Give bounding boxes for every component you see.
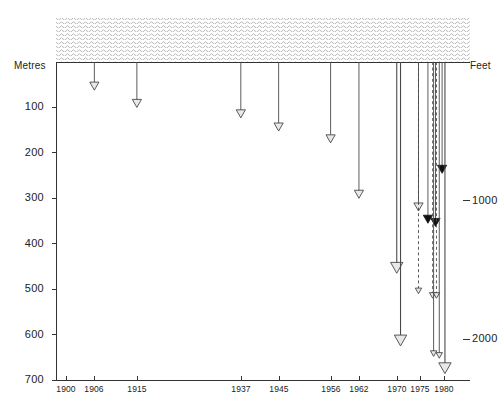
metres-tick-label-600: 600 [8,328,44,340]
dive-record-arrow [433,62,439,298]
open-arrowhead-icon [436,353,442,359]
open-arrowhead-icon [236,110,245,118]
dive-record-arrow [394,62,406,346]
open-arrowhead-icon [274,123,283,131]
metres-tick-label-300: 300 [8,191,44,203]
dive-depth-record-figure: Metres Feet 100 200 300 400 500 600 700 … [0,0,504,411]
dive-record-arrow [391,62,403,273]
dive-record-arrow [423,62,432,223]
dive-record-arrows [90,62,451,374]
year-tick-label-1906: 1906 [79,384,109,394]
axis-frame [56,62,470,381]
dive-record-arrow [90,62,99,90]
open-arrowhead-icon [394,335,406,346]
year-tick-label-1945: 1945 [264,384,294,394]
year-tick-label-1937: 1937 [226,384,256,394]
open-arrowhead-icon [430,351,436,357]
dive-record-arrow [439,62,451,374]
feet-axis-title: Feet [470,60,491,71]
water-surface-hatching [56,18,470,62]
dive-record-arrow [132,62,141,107]
open-arrowhead-icon [439,363,451,374]
dive-record-arrow [236,62,245,118]
open-arrowhead-icon [415,288,421,294]
metres-tick-label-200: 200 [8,146,44,158]
open-arrowhead-icon [132,99,141,107]
dive-record-arrow [274,62,283,131]
feet-tick-label-1000: 1000 [472,194,498,206]
dive-record-arrow [326,62,335,143]
metres-tick-label-100: 100 [8,100,44,112]
depth-chart-canvas [0,0,504,411]
metres-tick-label-700: 700 [8,373,44,385]
dive-record-arrow [429,62,435,298]
feet-tick-label-2000: 2000 [472,332,498,344]
metres-tick-label-400: 400 [8,237,44,249]
year-tick-label-1915: 1915 [122,384,152,394]
year-tick-label-1956: 1956 [316,384,346,394]
open-arrowhead-icon [354,190,363,198]
feet-tick-marks [463,201,470,340]
metres-tick-label-500: 500 [8,282,44,294]
open-arrowhead-icon [326,135,335,143]
year-tick-label-1962: 1962 [344,384,374,394]
metres-axis-title: Metres [14,60,46,71]
open-arrowhead-icon [90,82,99,90]
year-tick-label-1900: 1900 [51,384,81,394]
open-arrowhead-icon [391,262,403,273]
dive-record-arrow [436,62,442,358]
dive-record-arrow [354,62,363,198]
year-tick-label-1980: 1980 [429,384,459,394]
